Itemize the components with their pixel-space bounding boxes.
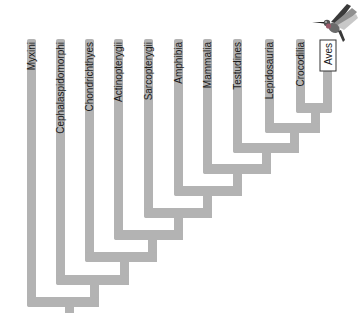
label-myxini: Myxini [26, 42, 37, 70]
label-mammalia: Mammalia [202, 42, 213, 89]
cladogram: Myxini Cephalaspidomorphi Chondrichthyes… [0, 0, 364, 328]
label-testudines: Testudines [232, 42, 243, 90]
label-crocodilia: Crocodilia [295, 42, 306, 87]
label-sarcopterygii: Sarcopterygii [143, 42, 154, 100]
node-craniata [27, 297, 99, 307]
hummingbird-icon [312, 4, 358, 42]
label-cephalaspidomorphi: Cephalaspidomorphi [55, 42, 66, 134]
branch-myxini [27, 39, 36, 307]
label-lepidosauria: Lepidosauria [264, 42, 275, 100]
label-chondrichthyes: Chondrichthyes [84, 42, 95, 111]
label-actinopterygii: Actinopterygii [113, 42, 124, 102]
root-stem [65, 297, 74, 313]
label-aves: Aves [323, 43, 334, 65]
label-amphibia: Amphibia [173, 42, 184, 84]
